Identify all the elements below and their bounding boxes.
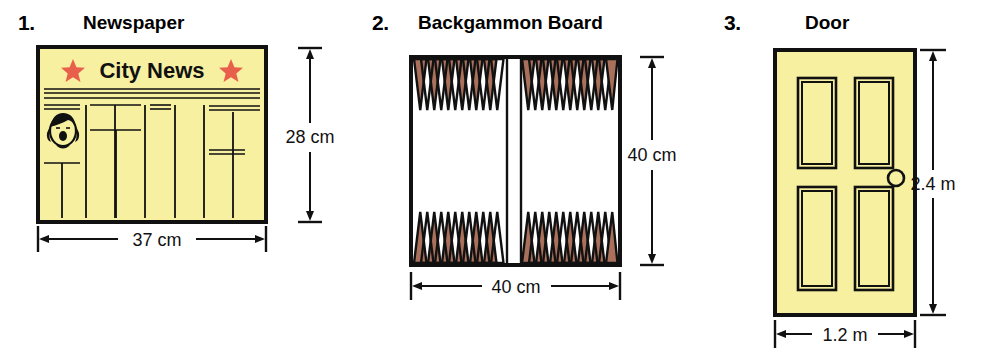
dimension-width-newspaper: 37 cm: [38, 226, 266, 252]
dimension-height-newspaper: 28 cm: [285, 48, 334, 222]
figure-door: 3. Door: [700, 0, 1007, 362]
dimension-label-40cm-width: 40 cm: [491, 277, 540, 297]
dimension-label-37cm: 37 cm: [132, 230, 181, 250]
door-panel-top-right: [855, 78, 893, 168]
dimension-height-door: 2.4 m: [910, 50, 955, 315]
door-illustration: 2.4 m 1.2 m: [700, 0, 1007, 362]
door-panel-top-left: [798, 78, 836, 168]
newspaper-masthead: City News: [99, 58, 204, 83]
backgammon-center-bar: [507, 59, 521, 263]
dimension-width-door: 1.2 m: [775, 320, 915, 348]
dimension-label-40cm-height: 40 cm: [627, 145, 676, 165]
dimension-height-backgammon: 40 cm: [627, 57, 676, 265]
backgammon-illustration: 40 cm 40 cm: [340, 0, 700, 362]
doorknob-icon: [888, 170, 904, 186]
dimension-width-backgammon: 40 cm: [411, 272, 620, 300]
dimension-label-1-2m: 1.2 m: [822, 325, 867, 345]
newspaper-illustration: City News 28 cm: [0, 0, 340, 362]
door-panel-bottom-right: [855, 187, 893, 290]
dimension-label-2-4m: 2.4 m: [910, 174, 955, 194]
figure-backgammon-board: 2. Backgammon Board: [340, 0, 700, 362]
dimension-label-28cm: 28 cm: [285, 127, 334, 147]
figure-newspaper: 1. Newspaper: [0, 0, 340, 362]
figures-canvas: 1. Newspaper: [0, 0, 1007, 362]
door-panel-bottom-left: [798, 187, 836, 290]
